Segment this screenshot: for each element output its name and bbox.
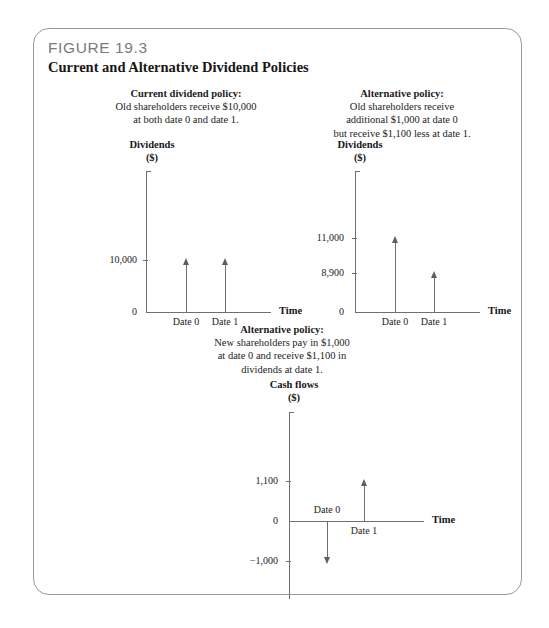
chart-alt2-bar-date1 [364,485,365,521]
chart-alt2-arrowhead-date1 [361,479,367,486]
caption-alt2-heading: Alternative policy: [172,323,392,336]
chart-alt1-tick-label-11000: 11,000 [292,232,344,243]
chart-current-arrowhead-date1 [222,258,228,265]
caption-alt1-line2: additional $1,000 at date 0 [292,113,512,126]
caption-current-line2: at both date 0 and date 1. [86,113,286,126]
caption-current-line1: Old shareholders receive $10,000 [86,100,286,113]
figure-title: Current and Alternative Dividend Policie… [48,59,309,76]
chart-current-bar-date0 [186,264,187,312]
chart-alt2-tick-label-minus1000: −1,000 [217,555,278,566]
caption-alt1-line3: but receive $1,100 less at date 1. [292,127,512,140]
chart-alt1-y-axis [355,171,356,312]
caption-current-heading: Current dividend policy: [86,87,286,100]
chart-alt1-bar-date1 [434,277,435,312]
chart-alt1-tick-11000 [352,238,357,239]
chart-current-x-axis [146,312,271,313]
caption-alt1-line1: Old shareholders receive [292,100,512,113]
figure-card: FIGURE 19.3 Current and Alternative Divi… [33,28,522,595]
caption-alt1-heading: Alternative policy: [292,87,512,100]
chart-alt1-x-axis-label: Time [488,305,511,316]
chart-alt2-y-axis-title-line2: ($) [288,392,300,403]
chart-current-y-axis-cap [146,171,151,172]
chart-alt2-bar-date0 [327,521,328,561]
chart-current-y-axis-title-line2: ($) [146,152,158,163]
chart-alt2-tick-label-1100: 1,100 [221,475,278,486]
chart-current-y-axis-title-line1: Dividends [130,139,175,150]
chart-alt1-x-axis [355,312,480,313]
chart-alt1-tick-label-zero: 0 [292,306,344,317]
chart-alt2-x-axis [289,521,424,522]
caption-alternative-policy-2: Alternative policy: New shareholders pay… [172,323,392,376]
chart-current-tick-label-10000: 10,000 [87,254,137,265]
chart-current-y-axis-title: Dividends ($) [107,139,197,164]
chart-alternative-policy-1: Dividends ($) 11,000 8,900 0 Time Date 0… [289,139,504,324]
chart-current-tick-label-zero: 0 [87,306,137,317]
chart-alt1-tick-8900 [352,273,357,274]
chart-current-bar-date1 [225,264,226,312]
chart-alternative-policy-2: Cash flows ($) 1,100 0 −1,000 Time Date … [179,379,429,594]
chart-alt2-date1-label: Date 1 [339,525,389,536]
chart-alt2-tick-minus1000 [286,561,291,562]
chart-alt1-y-axis-title-line1: Dividends [338,139,383,150]
caption-alt2-line1: New shareholders pay in $1,000 [172,336,392,349]
chart-alt2-date0-label: Date 0 [302,504,352,515]
chart-alt2-x-axis-label: Time [432,514,455,525]
chart-alt1-tick-label-8900: 8,900 [292,267,344,278]
chart-alt1-y-axis-title-line2: ($) [354,152,366,163]
chart-current-tick-10000 [143,260,148,261]
caption-alt2-line3: dividends at date 1. [172,363,392,376]
chart-alt1-y-axis-cap [355,171,360,172]
chart-current-dividend-policy: Dividends ($) 10,000 0 Time Date 0 Date … [79,139,294,324]
caption-current-policy: Current dividend policy: Old shareholder… [86,87,286,127]
chart-alt2-tick-1100 [286,481,291,482]
chart-alt2-y-axis-cap [289,412,294,413]
chart-alt2-arrowhead-date0 [324,557,330,564]
chart-alt1-arrowhead-date0 [392,236,398,243]
figure-number: FIGURE 19.3 [48,39,148,57]
chart-current-arrowhead-date0 [183,258,189,265]
chart-alt2-tick-label-zero: 0 [221,515,278,526]
chart-alt2-y-axis-title-line1: Cash flows [270,379,319,390]
chart-alt2-y-axis-title: Cash flows ($) [244,379,344,404]
caption-alternative-policy-1: Alternative policy: Old shareholders rec… [292,87,512,140]
chart-alt1-arrowhead-date1 [431,271,437,278]
chart-alt1-y-axis-title: Dividends ($) [315,139,405,164]
chart-alt1-date1-label: Date 1 [409,316,459,327]
chart-alt2-y-axis [289,412,290,599]
chart-current-y-axis [146,171,147,312]
chart-alt1-bar-date0 [395,242,396,312]
caption-alt2-line2: at date 0 and receive $1,100 in [172,349,392,362]
